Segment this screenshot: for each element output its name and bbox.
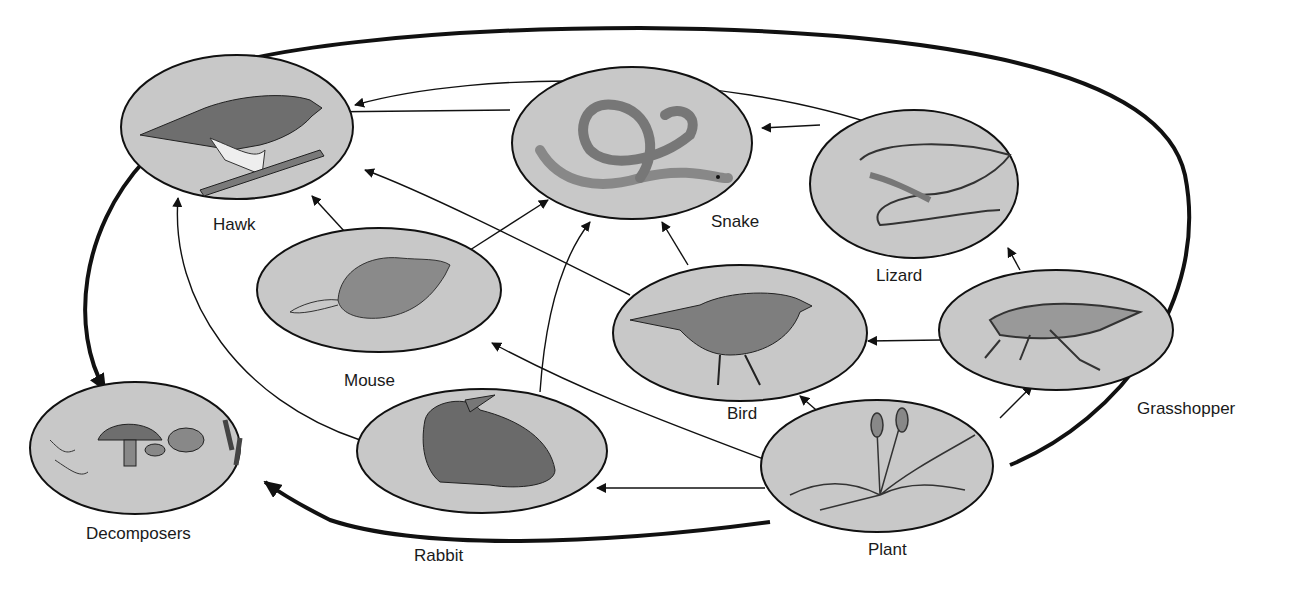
food-web-diagram — [0, 0, 1305, 601]
label-lizard: Lizard — [876, 266, 922, 286]
label-snake: Snake — [711, 212, 759, 232]
label-mouse: Mouse — [344, 371, 395, 391]
label-hawk: Hawk — [213, 215, 256, 235]
node-hawk — [121, 55, 353, 199]
label-decomposers: Decomposers — [86, 524, 191, 544]
node-grasshopper — [939, 270, 1173, 390]
node-rabbit — [357, 389, 607, 513]
label-plant: Plant — [868, 540, 907, 560]
node-lizard — [810, 110, 1018, 258]
label-rabbit: Rabbit — [414, 546, 463, 566]
node-mouse — [257, 228, 501, 352]
node-decomposers — [30, 382, 240, 514]
label-bird: Bird — [727, 404, 757, 424]
node-plant — [761, 400, 993, 532]
label-grasshopper: Grasshopper — [1137, 399, 1235, 419]
node-bird — [613, 265, 867, 401]
node-snake — [512, 67, 752, 219]
